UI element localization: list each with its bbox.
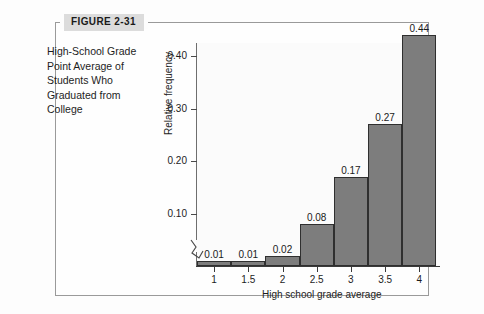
- bar-value-label: 0.02: [273, 244, 292, 255]
- x-axis-tick-label: 1: [211, 274, 217, 285]
- bar-value-label: 0.01: [204, 249, 223, 260]
- axis-break-icon: [189, 238, 205, 260]
- y-axis-tick: 0.40: [191, 56, 197, 57]
- x-axis-tick-label: 3: [348, 274, 354, 285]
- x-axis-tick: [248, 267, 249, 272]
- bar: 0.27: [368, 124, 402, 266]
- x-axis-tick: [385, 267, 386, 272]
- y-axis-tick-label: 0.20: [168, 155, 187, 166]
- x-axis-title: High school grade average: [262, 289, 382, 300]
- x-axis-tick: [351, 267, 352, 272]
- x-axis-tick: [214, 267, 215, 272]
- chart-plot-area: 0.100.200.300.40 0.010.010.020.080.170.2…: [160, 36, 452, 286]
- y-axis-tick: 0.20: [191, 161, 197, 162]
- bar: 0.44: [402, 35, 436, 266]
- bar: 0.01: [231, 261, 265, 266]
- x-axis-tick: [317, 267, 318, 272]
- bar-value-label: 0.27: [375, 112, 394, 123]
- x-axis-tick-label: 1.5: [241, 274, 255, 285]
- y-axis-tick: 0.10: [191, 214, 197, 215]
- bar: 0.01: [197, 261, 231, 266]
- x-axis-tick-label: 2.5: [310, 274, 324, 285]
- x-axis-tick-label: 2: [280, 274, 286, 285]
- y-axis-line: [196, 43, 197, 240]
- x-axis-tick-label: 4: [417, 274, 423, 285]
- x-axis-tick: [419, 267, 420, 272]
- figure-caption: High-School Grade Point Average of Stude…: [47, 44, 155, 117]
- bar: 0.02: [265, 256, 299, 267]
- bar-value-label: 0.44: [410, 23, 429, 34]
- y-axis-tick-label: 0.10: [168, 208, 187, 219]
- x-axis-tick-label: 3.5: [378, 274, 392, 285]
- figure-number-tag: FIGURE 2-31: [64, 14, 144, 31]
- bar-value-label: 0.17: [341, 165, 360, 176]
- bar: 0.08: [300, 224, 334, 266]
- y-axis-tick: 0.30: [191, 109, 197, 110]
- figure-screenshot: FIGURE 2-31 High-School Grade Point Aver…: [0, 0, 484, 314]
- x-axis-line: [196, 266, 440, 267]
- x-axis-tick: [283, 267, 284, 272]
- bar: 0.17: [334, 177, 368, 266]
- y-axis-title: Relative frequency: [163, 39, 174, 149]
- bar-value-label: 0.01: [239, 249, 258, 260]
- bar-value-label: 0.08: [307, 212, 326, 223]
